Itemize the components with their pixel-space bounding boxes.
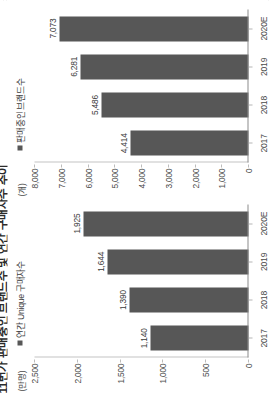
y-axis: 05001,0001,5002,0002,500 [34,359,248,391]
y-axis-tick-label: 3,000 [163,168,173,188]
bar-slot: 7,073 [34,9,248,47]
bar-series: 1,1401,3901,6441,925 [34,204,248,357]
y-axis-tick-mark [114,164,115,167]
y-axis-tick-label: 2,000 [190,168,200,188]
bar-value-label: 1,140 [138,328,148,348]
y-axis-tick-mark [162,359,163,362]
y-axis-tick-mark [87,164,88,167]
plot-area: 01,0002,0003,0004,0005,0006,0007,0008,00… [34,9,248,162]
y-axis-tick-mark [34,164,35,167]
legend-label: 판매중인 브랜드수 [13,78,26,142]
x-axis-tick-label: 2019 [258,47,268,85]
legend-swatch-icon [17,145,22,150]
y-axis-tick-label: 2,000 [72,363,82,383]
x-axis-tick-mark [248,261,252,262]
bar-slot: 1,390 [34,281,248,319]
bar-value-label: 1,644 [95,251,105,271]
y-axis-unit-label: (개) [14,183,26,196]
x-axis-tick-label: 2020E [258,9,268,47]
legend-swatch-icon [17,340,22,345]
y-axis-tick-mark [194,164,195,167]
y-axis-tick-mark [60,164,61,167]
x-axis-line [247,9,248,162]
x-axis-tick-label: 2018 [258,86,268,124]
x-axis-tick-label: 2018 [258,281,268,319]
bar-value-label: 1,925 [71,213,81,233]
x-axis-tick-mark [248,28,252,29]
y-axis-tick-label: 8,000 [29,168,39,188]
y-axis-tick-label: 2,500 [29,363,39,383]
charts-row: (만명) 연간 Unique 구매자수 05001,0001,5002,0002… [12,0,270,399]
y-axis-tick-mark [167,164,168,167]
y-axis-tick-label: 5,000 [109,168,119,188]
y-axis-unit-label: (만명) [14,370,26,391]
x-axis-tick-label: 2017 [258,124,268,162]
bar-slot: 1,644 [34,242,248,280]
bar-slot: 1,925 [34,204,248,242]
bar[interactable] [83,211,248,236]
y-axis-tick-mark [248,359,249,362]
bar[interactable] [107,249,248,274]
x-axis: 2017201820192020E [258,204,268,357]
y-axis-tick-label: 4,000 [136,168,146,188]
y-axis-tick-mark [141,164,142,167]
y-axis-tick-mark [76,359,77,362]
x-axis-tick-mark [248,337,252,338]
x-axis-tick-label: 2019 [258,242,268,280]
bar[interactable] [129,287,248,312]
x-axis-tick-mark [248,142,252,143]
x-axis-tick-label: 2017 [258,319,268,357]
bar[interactable] [101,92,248,117]
y-axis-tick-label: 500 [200,363,210,376]
bar[interactable] [130,130,248,155]
y-axis-tick-label: 6,000 [83,168,93,188]
y-axis-tick-mark [205,359,206,362]
y-axis-tick-label: 1,000 [216,168,226,188]
y-axis-tick-mark [34,359,35,362]
page-title: 11번가 판매중인 브랜드수 및 연간 구매자수 추이 [0,63,7,393]
bar-slot: 4,414 [34,124,248,162]
x-axis-tick-mark [248,104,252,105]
x-axis-tick-label: 2020E [258,204,268,242]
bar-value-label: 1,390 [117,290,127,310]
chart-brands-on-sale: (개) 판매중인 브랜드수 01,0002,0003,0004,0005,000… [12,7,270,196]
y-axis-tick-label: 1,500 [115,363,125,383]
bar-value-label: 7,073 [47,18,57,38]
y-axis-tick-mark [248,164,249,167]
bar-slot: 6,281 [34,47,248,85]
y-axis-tick-mark [119,359,120,362]
bar-slot: 1,140 [34,319,248,357]
x-axis-tick-mark [248,66,252,67]
y-axis-tick-label: 0 [243,363,253,367]
y-axis-tick-mark [221,164,222,167]
bar[interactable] [80,54,248,79]
bar[interactable] [59,16,248,41]
page-root: 11번가 판매중인 브랜드수 및 연간 구매자수 추이 (만명) 연간 Uniq… [0,0,270,399]
x-axis-line [247,204,248,357]
bar[interactable] [150,325,248,350]
bar-series: 4,4145,4866,2817,073 [34,9,248,162]
y-axis: 01,0002,0003,0004,0005,0006,0007,0008,00… [34,164,248,196]
chart-legend: 판매중인 브랜드수 [13,78,26,150]
x-axis-tick-mark [248,223,252,224]
bar-value-label: 6,281 [68,56,78,76]
bar-value-label: 4,414 [118,133,128,153]
chart-legend: 연간 Unique 구매자수 [13,261,26,345]
y-axis-tick-label: 7,000 [56,168,66,188]
chart-unique-buyers: (만명) 연간 Unique 구매자수 05001,0001,5002,0002… [12,202,270,391]
rotated-document-page: 11번가 판매중인 브랜드수 및 연간 구매자수 추이 (만명) 연간 Uniq… [0,0,270,399]
x-axis-tick-mark [248,299,252,300]
x-axis: 2017201820192020E [258,9,268,162]
y-axis-tick-label: 1,000 [157,363,167,383]
y-axis-tick-label: 0 [243,168,253,172]
bar-slot: 5,486 [34,86,248,124]
legend-label: 연간 Unique 구매자수 [13,261,26,337]
bar-value-label: 5,486 [89,95,99,115]
plot-area: 05001,0001,5002,0002,500 1,1401,3901,644… [34,204,248,357]
